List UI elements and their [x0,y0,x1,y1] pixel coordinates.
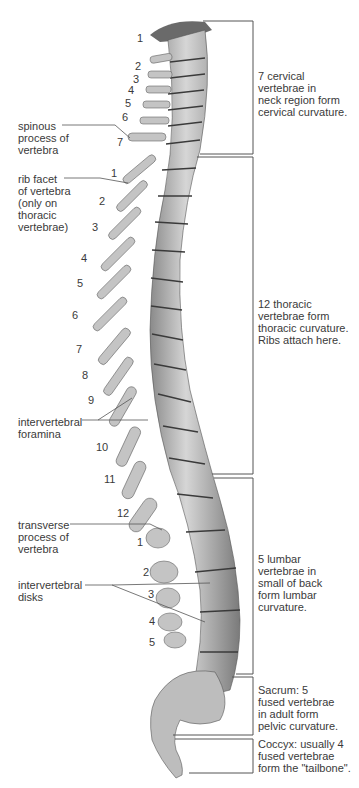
thoracic-number-11: 11 [104,473,115,485]
thoracic-number-3: 3 [92,221,98,233]
label-thoracic: 12 thoracic vertebrae form thoracic curv… [258,298,348,346]
thoracic-number-6: 6 [72,309,78,321]
cervical-number-1: 1 [137,32,143,44]
label-foramina: intervertebral foramina [18,416,82,440]
thoracic-number-8: 8 [82,369,88,381]
thoracic-number-10: 10 [96,441,108,453]
label-lumbar: 5 lumbar vertebrae in small of back form… [258,553,322,613]
lumbar-number-2: 2 [143,566,149,578]
lumbar-number-1: 1 [137,536,143,548]
thoracic-number-7: 7 [76,343,82,355]
label-sacrum: Sacrum: 5 fused vertebrae in adult form … [258,684,338,732]
label-transverse: transverse process of vertebra [18,519,69,555]
label-spinous: spinous process of vertebra [18,120,69,156]
thoracic-number-4: 4 [81,252,87,264]
thoracic-number-5: 5 [77,277,83,289]
label-cervical: 7 cervical vertebrae in neck region form… [258,70,347,118]
cervical-number-5: 5 [125,97,131,109]
lumbar-number-3: 3 [148,588,154,600]
lumbar-number-4: 4 [149,615,155,627]
cervical-number-2: 2 [135,60,141,72]
thoracic-number-12: 12 [117,507,129,519]
thoracic-number-9: 9 [88,394,94,406]
thoracic-number-1: 1 [111,167,117,179]
label-coccyx: Coccyx: usually 4 fused vertebrae form t… [258,738,351,774]
lumbar-number-5: 5 [149,636,155,648]
cervical-number-6: 6 [122,111,128,123]
spine-illustration [0,0,359,788]
label-rib-facet: rib facet of vertebra (only on thoracic … [18,173,71,233]
cervical-number-7: 7 [117,136,123,148]
label-disks: intervertebral disks [18,579,82,603]
thoracic-number-2: 2 [99,195,105,207]
cervical-number-4: 4 [128,84,134,96]
